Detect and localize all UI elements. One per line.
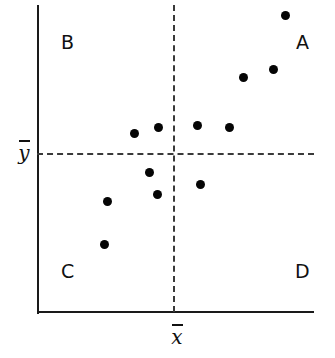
y-mean-dashed-line — [37, 153, 314, 155]
quadrant-label-d: D — [295, 262, 310, 281]
x-mean-dashed-line — [173, 5, 175, 312]
x-mean-axis-label: x — [167, 324, 187, 347]
data-point — [193, 121, 202, 130]
x-axis-line — [37, 311, 314, 313]
y-mean-glyph: y — [14, 143, 34, 163]
data-point — [239, 73, 248, 82]
data-point — [154, 123, 163, 132]
scatter-plot-figure: A B C D y x — [0, 0, 335, 358]
x-mean-glyph: x — [167, 327, 187, 347]
data-point — [281, 11, 290, 20]
quadrant-label-a: A — [296, 33, 309, 52]
data-point — [100, 240, 109, 249]
data-point — [269, 65, 278, 74]
y-mean-axis-label: y — [14, 140, 34, 163]
data-point — [145, 168, 154, 177]
data-point — [103, 197, 112, 206]
data-point — [130, 129, 139, 138]
y-axis-line — [37, 5, 39, 314]
quadrant-label-b: B — [61, 33, 74, 52]
data-point — [225, 123, 234, 132]
data-point — [196, 180, 205, 189]
quadrant-label-c: C — [61, 262, 74, 281]
data-point — [153, 190, 162, 199]
